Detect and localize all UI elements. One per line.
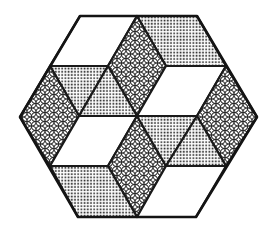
hexagon-tiling-figure <box>0 0 274 238</box>
tile-group <box>20 16 257 217</box>
